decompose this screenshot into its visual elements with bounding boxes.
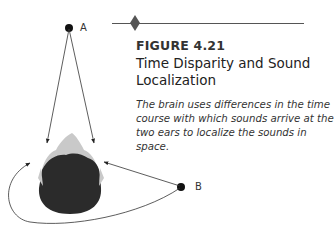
source-a-label: A: [80, 22, 87, 33]
figure-label: FIGURE 4.21: [136, 38, 225, 53]
source-b-label: B: [195, 181, 202, 192]
figure-caption: The brain uses differences in the time c…: [136, 98, 334, 154]
head-icon: [38, 133, 104, 214]
figure-title: Time Disparity and Sound Localization: [136, 55, 331, 89]
header-rule: [112, 23, 304, 24]
diamond-icon: [130, 15, 140, 31]
